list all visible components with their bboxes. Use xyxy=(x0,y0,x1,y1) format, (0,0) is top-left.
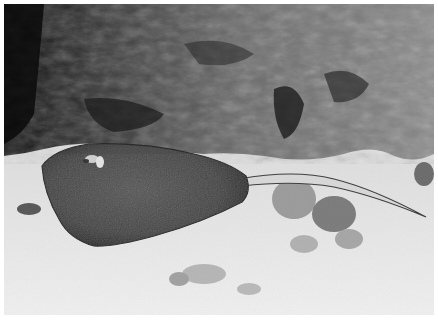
underwater-photo xyxy=(4,4,434,315)
photo-canvas xyxy=(4,4,434,315)
